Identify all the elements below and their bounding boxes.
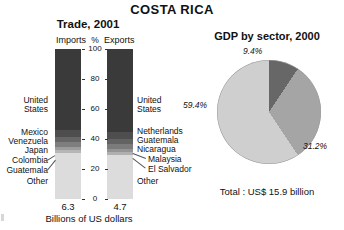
- tick-mark-right: [105, 79, 108, 80]
- exports-label-united-states: UnitedStates: [137, 96, 162, 114]
- imports-label-united-states-line: States: [23, 105, 48, 114]
- bar-segment: [107, 132, 133, 140]
- trade-axis-label: Billions of US dollars: [18, 213, 160, 224]
- bar-segment: [55, 49, 81, 130]
- axis-tick-label: 60: [86, 105, 104, 113]
- tick-mark-right: [105, 199, 108, 200]
- tick-mark-left: [82, 49, 85, 50]
- axis-tick-label: 20: [86, 165, 104, 173]
- tick-mark-left: [82, 79, 85, 80]
- tick-mark-right: [105, 49, 108, 50]
- pie-slice-label-3: 59.4%: [183, 100, 207, 110]
- axis-tick-label: 80: [86, 75, 104, 83]
- exports-label-el-salvador-line: El Salvador: [148, 165, 191, 174]
- exports-label-other: Other: [137, 177, 158, 186]
- leader-line: [132, 158, 146, 169]
- tick-mark-right: [105, 139, 108, 140]
- imports-column-header: Imports: [40, 35, 86, 45]
- tick-mark-right: [105, 169, 108, 170]
- exports-label-malaysia: Malaysia: [148, 155, 182, 164]
- pie-slice-label-1: 9.4%: [243, 46, 262, 56]
- imports-label-japan: Japan: [25, 146, 48, 155]
- imports-label-colombia: Colombia: [12, 156, 48, 165]
- tick-mark-left: [82, 139, 85, 140]
- bar-segment: [107, 155, 133, 199]
- imports-label-guatemala-line: Guatemala: [6, 166, 48, 175]
- axis-tick-label: 100: [86, 45, 104, 53]
- bar-segment: [107, 49, 133, 132]
- page-title: COSTA RICA: [0, 2, 344, 17]
- tick-mark-left: [82, 199, 85, 200]
- exports-label-el-salvador: El Salvador: [148, 165, 191, 174]
- imports-stacked-bar: [55, 49, 81, 199]
- exports-label-nicaragua-line: Nicaragua: [137, 145, 176, 154]
- imports-label-colombia-line: Colombia: [12, 156, 48, 165]
- axis-tick-label: 40: [86, 135, 104, 143]
- imports-label-united-states: UnitedStates: [23, 96, 48, 114]
- exports-stacked-bar: [107, 49, 133, 199]
- exports-column-header: Exports: [104, 35, 148, 45]
- pie-slice-label-2: 31.2%: [303, 141, 327, 151]
- imports-label-other-line: Other: [27, 177, 48, 186]
- gdp-total-label: Total : US$ 15.9 billion: [194, 186, 340, 197]
- tick-mark-right: [105, 109, 108, 110]
- tick-mark-left: [82, 109, 85, 110]
- bar-segment: [55, 130, 81, 137]
- bar-segment: [55, 153, 81, 199]
- exports-total-value: 4.7: [100, 201, 140, 212]
- imports-label-guatemala: Guatemala: [6, 166, 48, 175]
- trade-chart-title: Trade, 2001: [24, 18, 152, 30]
- tick-mark-left: [82, 169, 85, 170]
- percent-axis: 100806040200: [86, 49, 104, 199]
- page-edge-artifact: [1, 214, 4, 221]
- gdp-chart-title: GDP by sector, 2000: [194, 30, 340, 42]
- imports-label-other: Other: [27, 177, 48, 186]
- exports-label-other-line: Other: [137, 177, 158, 186]
- exports-label-united-states-line: States: [137, 105, 162, 114]
- exports-label-malaysia-line: Malaysia: [148, 155, 182, 164]
- exports-label-nicaragua: Nicaragua: [137, 145, 176, 154]
- imports-total-value: 6.3: [48, 201, 88, 212]
- imports-label-japan-line: Japan: [25, 146, 48, 155]
